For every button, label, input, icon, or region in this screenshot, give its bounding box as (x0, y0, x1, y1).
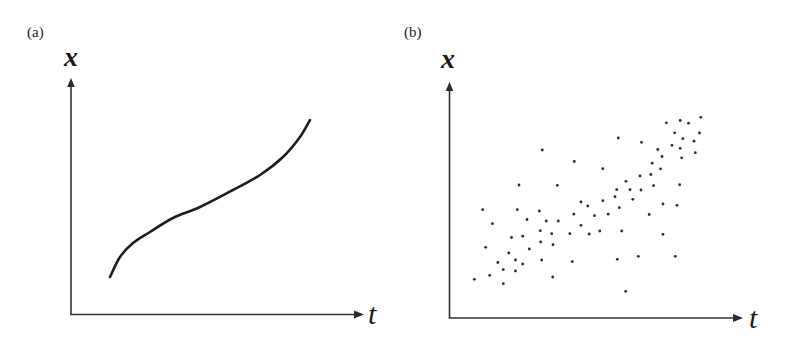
scatter-point (661, 155, 664, 158)
scatter-point (649, 173, 652, 176)
scatter-point (601, 199, 604, 202)
panel-a-x-axis-arrow-icon (354, 311, 364, 319)
scatter-point (538, 210, 541, 213)
scatter-point (681, 137, 684, 140)
scatter-point (693, 140, 696, 143)
scatter-point (625, 180, 628, 183)
scatter-point (521, 263, 524, 266)
scatter-point (528, 248, 531, 251)
scatter-point (539, 229, 542, 232)
scatter-point (545, 220, 548, 223)
scatter-point (488, 274, 491, 277)
scatter-point (540, 259, 543, 262)
scatter-point (484, 246, 487, 249)
scatter-point (588, 233, 591, 236)
scatter-point (598, 230, 601, 233)
scatter-point (541, 149, 544, 152)
scatter-point (580, 224, 583, 227)
scatter-point (502, 268, 505, 271)
scatter-point (679, 119, 682, 122)
panel-a-y-axis-label: x (63, 41, 78, 72)
scatter-point (662, 203, 665, 206)
scatter-point (648, 213, 651, 216)
scatter-point (614, 195, 617, 198)
scatter-point (679, 147, 682, 150)
scatter-point (552, 243, 555, 246)
scatter-point (616, 258, 619, 261)
panel-a-curve (110, 120, 310, 277)
scatter-point (593, 214, 596, 217)
panel-b-label: (b) (404, 24, 422, 41)
scatter-point (620, 230, 623, 233)
scatter-point (624, 290, 627, 293)
scatter-point (639, 175, 642, 178)
scatter-point (510, 236, 513, 239)
scatter-point (491, 222, 494, 225)
scatter-point (615, 188, 618, 191)
panel-b-scatter-points (473, 116, 702, 293)
scatter-point (496, 261, 499, 264)
panel-a: (a) x t (27, 24, 377, 330)
scatter-point (629, 188, 632, 191)
scatter-point (539, 241, 542, 244)
scatter-point (699, 116, 702, 119)
scatter-point (518, 184, 521, 187)
scatter-point (662, 233, 665, 236)
scatter-point (573, 160, 576, 163)
panel-b-y-axis-label: x (440, 43, 455, 74)
scatter-point (673, 131, 676, 134)
scatter-point (656, 148, 659, 151)
scatter-point (607, 213, 610, 216)
scatter-point (651, 162, 654, 165)
scatter-point (526, 218, 529, 221)
scatter-point (516, 208, 519, 211)
scatter-point (571, 260, 574, 263)
scatter-point (514, 270, 517, 273)
scatter-point (674, 255, 677, 258)
scatter-point (631, 198, 634, 201)
panel-a-label: (a) (27, 24, 44, 41)
scatter-point (557, 220, 560, 223)
scatter-point (580, 201, 583, 204)
scatter-point (694, 151, 697, 154)
panel-b: (b) x t (404, 24, 758, 334)
scatter-point (640, 189, 643, 192)
scatter-point (665, 121, 668, 124)
scatter-point (676, 204, 679, 207)
scatter-point (550, 232, 553, 235)
scatter-point (521, 235, 524, 238)
scatter-point (514, 259, 517, 262)
scatter-point (680, 156, 683, 159)
scatter-point (652, 184, 655, 187)
scatter-point (678, 183, 681, 186)
scatter-point (601, 167, 604, 170)
figure: (a) x t (b) x t (0, 0, 787, 343)
scatter-point (637, 255, 640, 258)
scatter-point (473, 278, 476, 281)
scatter-point (659, 167, 662, 170)
scatter-point (481, 208, 484, 211)
scatter-point (671, 144, 674, 147)
scatter-point (568, 232, 571, 235)
panel-b-x-axis-label: t (749, 301, 758, 334)
scatter-point (698, 132, 701, 135)
scatter-point (507, 252, 510, 255)
scatter-point (687, 122, 690, 125)
scatter-point (618, 206, 621, 209)
scatter-point (586, 205, 589, 208)
scatter-point (556, 184, 559, 187)
scatter-point (640, 141, 643, 144)
scatter-point (551, 276, 554, 279)
scatter-point (617, 137, 620, 140)
panel-a-x-axis-label: t (368, 297, 377, 330)
scatter-point (502, 282, 505, 285)
panel-b-y-axis-arrow-icon (446, 82, 454, 91)
panel-a-y-axis-arrow-icon (67, 78, 75, 87)
panel-b-x-axis-arrow-icon (733, 314, 743, 322)
scatter-point (572, 213, 575, 216)
